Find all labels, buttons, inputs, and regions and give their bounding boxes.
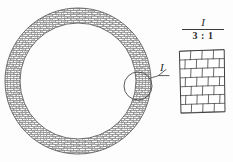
drawing-sheet: I I 3 : 1	[0, 0, 233, 162]
detail-view-letter: I	[181, 17, 225, 29]
detail-view-scale: 3 : 1	[181, 31, 225, 41]
detail-view-patch	[178, 48, 228, 116]
detail-reference-label: I	[160, 62, 164, 73]
detail-view-caption: I 3 : 1	[181, 17, 225, 41]
